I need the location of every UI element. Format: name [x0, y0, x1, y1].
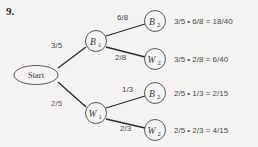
node-w1-subscript: 1 [98, 113, 101, 120]
branch-label-start-to-b1: 3/5 [51, 41, 62, 50]
node-w2-lower-label: W [148, 126, 157, 136]
edge-w1-to-b2 [106, 96, 145, 108]
branch-label-b1-to-b2: 6/8 [117, 13, 128, 22]
outcome-equation-b1-w2: 3/5 • 2/8 = 6/40 [174, 55, 228, 64]
node-b1: B 1 [86, 31, 107, 52]
node-w2-upper-subscript: 2 [157, 59, 160, 66]
node-w2-lower: W 2 [145, 120, 166, 141]
edge-b1-to-b2 [106, 24, 145, 36]
node-b1-label: B [90, 37, 96, 47]
node-b2-upper: B 2 [145, 11, 166, 32]
outcome-equation-w1-w2: 2/5 • 2/3 = 4/15 [174, 126, 228, 135]
node-start-label: Start [28, 70, 45, 80]
branch-label-b1-to-w2: 2/8 [115, 53, 126, 62]
node-b2-lower: B 2 [145, 83, 166, 104]
node-w2-lower-subscript: 2 [157, 130, 160, 137]
node-b2-lower-label: B [149, 89, 155, 99]
probability-tree-diagram: 9. Start B 1 W 1 B [0, 0, 258, 147]
node-w1-label: W [89, 109, 98, 119]
edge-start-to-b1 [58, 47, 86, 68]
branch-label-w1-to-b2: 1/3 [122, 85, 133, 94]
node-start: Start [14, 66, 58, 85]
node-w2-upper-label: W [148, 55, 157, 65]
node-b1-subscript: 1 [98, 41, 101, 48]
node-b2-upper-subscript: 2 [157, 21, 160, 28]
node-b2-lower-subscript: 2 [157, 93, 160, 100]
outcome-equation-w1-b2: 2/5 • 1/3 = 2/15 [174, 89, 228, 98]
node-w2-upper: W 2 [145, 49, 166, 70]
branch-label-w1-to-w2: 2/3 [120, 124, 131, 133]
node-w1: W 1 [86, 103, 107, 124]
outcome-equation-b1-b2: 3/5 • 6/8 = 18/40 [174, 17, 233, 26]
branch-label-start-to-w1: 2/5 [51, 99, 62, 108]
edge-start-to-w1 [58, 82, 86, 107]
node-b2-upper-label: B [149, 17, 155, 27]
